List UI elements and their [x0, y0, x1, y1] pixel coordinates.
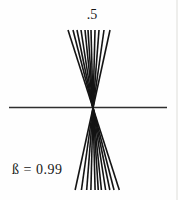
figure-page: .5 ß = 0.99 — [0, 0, 178, 200]
top-value-label: .5 — [0, 8, 178, 22]
beta-value-label: ß = 0.99 — [12, 163, 62, 177]
